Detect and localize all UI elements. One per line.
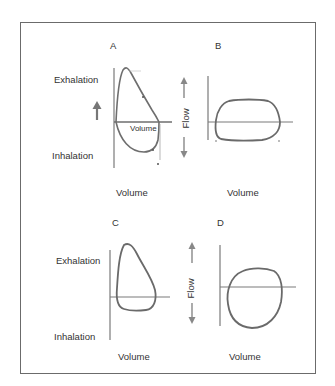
panel-c-loop-curve <box>117 244 156 311</box>
panel-a-expiratory-curve <box>116 68 159 122</box>
panel-a-up-arrow-icon <box>93 101 102 120</box>
panel-b-plot <box>181 76 294 158</box>
panel-d-up-arrow-icon <box>189 242 196 263</box>
panel-d-plot <box>189 242 297 328</box>
panel-b-loop-curve <box>216 100 280 141</box>
flow-volume-loops-graphic <box>0 0 335 386</box>
panel-a-marker <box>157 163 159 165</box>
panel-b-up-arrow-icon <box>181 77 188 98</box>
panel-a-plot <box>93 68 173 168</box>
panel-a-inspiratory-curve <box>116 122 159 152</box>
panel-c-plot <box>110 244 170 340</box>
panel-a-marker <box>152 149 154 151</box>
panel-d-loop-curve <box>228 268 282 328</box>
panel-d-down-arrow-icon <box>189 303 196 324</box>
panel-a-marker <box>142 96 144 98</box>
panel-b-marker <box>278 140 280 142</box>
panel-b-down-arrow-icon <box>181 137 188 158</box>
panel-b-marker <box>215 140 217 142</box>
